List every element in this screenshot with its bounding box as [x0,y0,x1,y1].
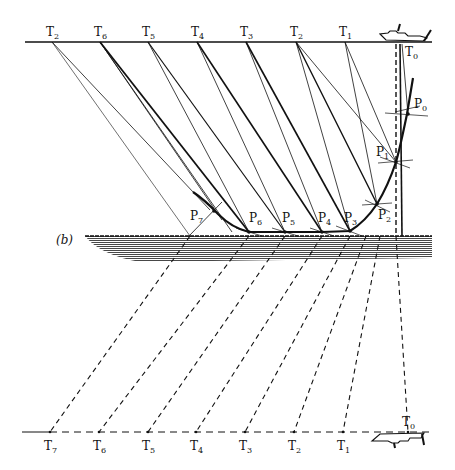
svg-text:T5: T5 [142,439,155,455]
image-rays [50,236,408,432]
svg-text:P0: P0 [414,97,427,113]
svg-text:P2: P2 [378,208,391,224]
svg-text:T2: T2 [290,25,303,41]
bottom-station-labels: T7 T6 T5 T4 T3 T2 T1 T0 [44,415,415,455]
svg-text:T1: T1 [339,25,352,41]
svg-text:P5: P5 [282,211,295,227]
svg-text:T4: T4 [191,25,204,41]
panel-label: (b) [56,233,73,247]
ray-paths [52,42,428,236]
svg-text:T1: T1 [337,439,350,455]
svg-text:T3: T3 [240,25,253,41]
svg-text:T3: T3 [239,439,252,455]
svg-text:T2: T2 [288,439,301,455]
svg-text:P3: P3 [344,211,357,227]
svg-text:T2: T2 [46,25,59,41]
ship-icon-top [380,24,431,41]
svg-text:T6: T6 [94,25,107,41]
svg-text:P7: P7 [190,209,203,225]
svg-text:T6: T6 [93,439,106,455]
svg-text:T4: T4 [190,439,203,455]
svg-text:T7: T7 [44,439,57,455]
diagram-canvas: (b) T2 T6 T5 T4 T3 T2 T1 T0 P0 P1 P2 P3 … [0,0,455,470]
svg-text:P4: P4 [318,211,331,227]
seabed-hatching [85,236,432,262]
svg-text:T5: T5 [142,25,155,41]
svg-text:P1: P1 [376,145,389,161]
svg-text:P6: P6 [249,211,262,227]
ship-icon-bottom [372,433,424,448]
svg-text:T0: T0 [402,415,415,431]
svg-text:T0: T0 [405,45,418,61]
